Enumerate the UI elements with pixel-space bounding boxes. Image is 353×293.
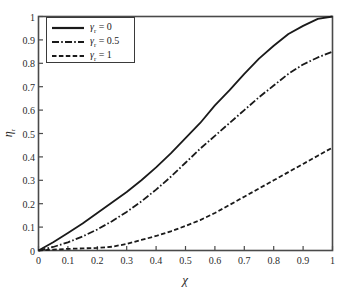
legend-label-1: γr = 0.5 <box>90 35 119 48</box>
y-tick-label: 0.7 <box>14 81 35 92</box>
legend-item: γr = 1 <box>51 49 130 62</box>
y-tick-label: 1 <box>14 11 35 22</box>
legend-line-sample-dashed <box>51 51 85 61</box>
chart-figure: 00.10.20.30.40.50.60.70.80.91 00.10.20.3… <box>0 0 353 293</box>
y-tick-label: 0.6 <box>14 105 35 116</box>
y-tick-label: 0.4 <box>14 151 35 162</box>
x-tick-label: 0.7 <box>238 255 251 266</box>
y-tick-label: 0.3 <box>14 175 35 186</box>
legend-label-0: γr = 0 <box>90 21 112 34</box>
legend-line-sample-solid <box>51 23 85 33</box>
y-tick-label: 0.9 <box>14 34 35 45</box>
legend-box: γr = 0 γr = 0.5 γr = 1 <box>46 17 135 63</box>
y-axis-label: ηr <box>1 129 17 137</box>
legend-label-2: γr = 1 <box>90 49 112 62</box>
y-tick-label: 0 <box>14 245 35 256</box>
x-tick-label: 0.9 <box>297 255 310 266</box>
x-axis-label: χ <box>182 272 188 288</box>
x-tick-label: 1 <box>330 255 335 266</box>
x-tick-label: 0.6 <box>209 255 222 266</box>
x-tick-label: 0.8 <box>267 255 280 266</box>
x-tick-label: 0.2 <box>91 255 104 266</box>
y-tick-label: 0.1 <box>14 222 35 233</box>
x-tick-label: 0.1 <box>62 255 75 266</box>
legend-item: γr = 0 <box>51 21 130 34</box>
legend-item: γr = 0.5 <box>51 35 130 48</box>
y-tick-label: 0.2 <box>14 198 35 209</box>
x-tick-label: 0.4 <box>150 255 163 266</box>
x-tick-label: 0 <box>36 255 41 266</box>
x-tick-label: 0.5 <box>179 255 192 266</box>
legend-line-sample-dashdot <box>51 37 85 47</box>
y-tick-label: 0.8 <box>14 58 35 69</box>
x-tick-label: 0.3 <box>120 255 133 266</box>
